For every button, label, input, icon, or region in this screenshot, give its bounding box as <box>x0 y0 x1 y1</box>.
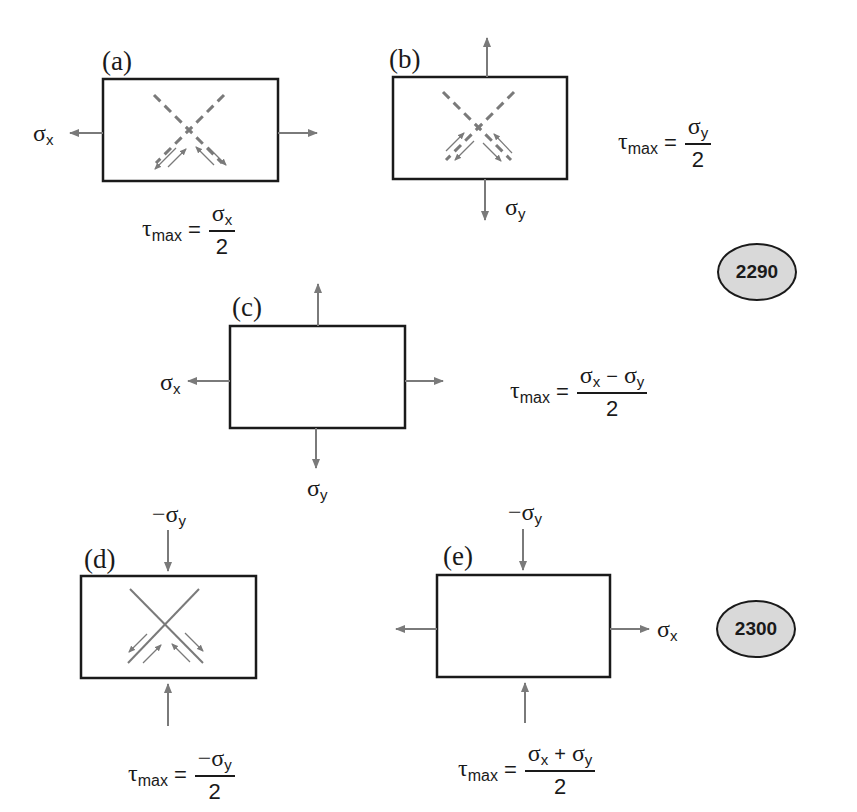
panel-e-graphics <box>396 529 649 723</box>
stress-element-c <box>230 326 405 428</box>
panel-a-graphics <box>70 79 317 181</box>
sigma-x-label: σx <box>657 617 677 643</box>
fraction: σx 2 <box>209 200 235 260</box>
equation-b: τmax = σy 2 <box>618 113 711 173</box>
minus-sigma-y-label: −σy <box>152 502 186 528</box>
max-shear-planes-dashed <box>443 92 514 160</box>
shear-arrows <box>129 633 203 663</box>
equation-c: τmax = σx−σy 2 <box>510 362 647 422</box>
problem-number-badge: 2300 <box>716 600 796 658</box>
sigma-y-label: σy <box>505 195 525 221</box>
panel-c-graphics <box>188 284 443 468</box>
panel-label-e: (e) <box>443 543 473 570</box>
equation-d: τmax = −σy 2 <box>128 745 235 805</box>
problem-number-badge: 2290 <box>717 243 797 301</box>
tau-symbol: τmax <box>142 215 182 245</box>
shear-arrows <box>446 133 512 161</box>
equation-e: τmax = σx+σy 2 <box>458 740 595 800</box>
max-shear-planes-solid <box>128 589 203 663</box>
diagram-graphics <box>0 0 857 812</box>
minus-sigma-y-label: −σy <box>508 500 542 526</box>
shear-arrows <box>155 147 226 169</box>
sigma-x-label: σx <box>33 121 53 147</box>
equation-a: τmax = σx 2 <box>142 200 235 260</box>
panel-label-d: (d) <box>84 546 115 573</box>
sigma-y-label: σy <box>307 476 327 502</box>
panel-label-b: (b) <box>389 46 420 73</box>
stress-element-e <box>437 575 610 677</box>
panel-label-a: (a) <box>102 48 132 75</box>
fraction: −σy 2 <box>195 745 235 805</box>
fraction: σy 2 <box>685 113 711 173</box>
fraction: σx+σy 2 <box>525 740 596 800</box>
panel-label-c: (c) <box>232 294 262 321</box>
fraction: σx−σy 2 <box>577 362 648 422</box>
sigma-x-label: σx <box>160 370 180 396</box>
